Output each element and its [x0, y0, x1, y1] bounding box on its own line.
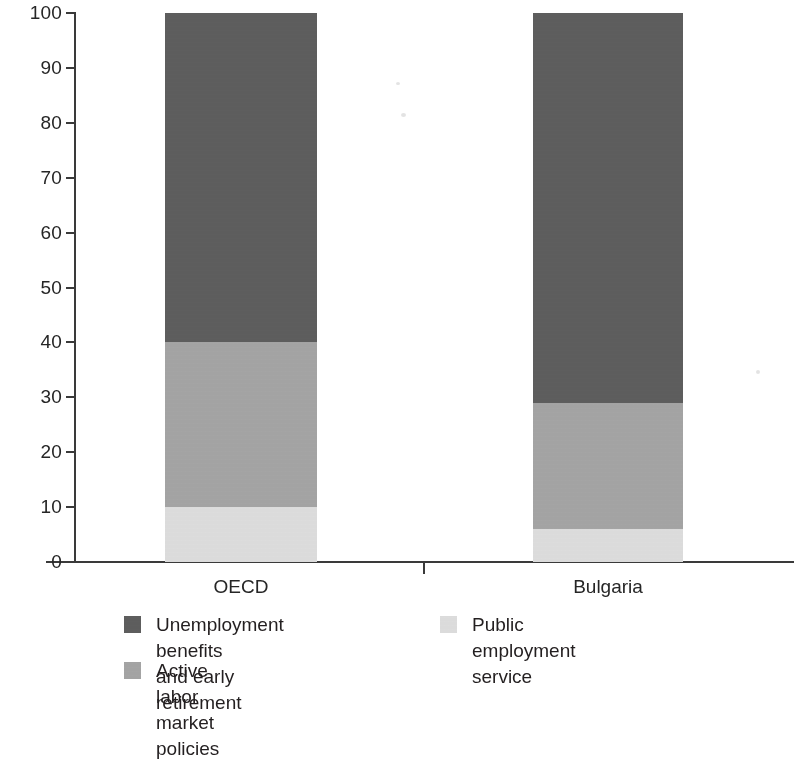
- y-axis-tick-label: 70: [6, 168, 62, 187]
- y-axis-tick-label: 0: [6, 552, 62, 571]
- y-axis-tick-label-wrap: 50: [0, 278, 62, 297]
- bar-segment: [533, 529, 683, 562]
- y-axis-tick: [66, 122, 75, 124]
- y-axis-tick-label-wrap: 30: [0, 387, 62, 406]
- y-axis-tick-label: 20: [6, 442, 62, 461]
- y-axis-tick: [66, 561, 75, 563]
- bar-segment: [165, 342, 317, 507]
- y-axis-tick: [66, 67, 75, 69]
- x-axis-center-tick: [423, 563, 425, 574]
- bar-segment: [165, 13, 317, 342]
- y-axis-tick-label-wrap: 0: [0, 552, 62, 571]
- y-axis-tick-label: 90: [6, 58, 62, 77]
- scan-grain-overlay: [165, 342, 317, 507]
- y-axis-tick: [66, 451, 75, 453]
- scan-grain-overlay: [533, 529, 683, 562]
- y-axis-tick: [66, 287, 75, 289]
- y-axis-tick-label-wrap: 60: [0, 223, 62, 242]
- x-axis-label-bulgaria: Bulgaria: [533, 576, 683, 598]
- legend-swatch-light-gray: [440, 616, 457, 633]
- x-axis-label-oecd: OECD: [165, 576, 317, 598]
- plot-area: 1009080706050403020100 OECDBulgaria: [0, 0, 796, 600]
- y-axis-tick-label: 10: [6, 497, 62, 516]
- y-axis-tick-label-wrap: 70: [0, 168, 62, 187]
- y-axis-tick-label-wrap: 100: [0, 3, 62, 22]
- y-axis-tick-label-wrap: 90: [0, 58, 62, 77]
- scan-grain-overlay: [440, 616, 457, 633]
- scan-grain-overlay: [124, 616, 141, 633]
- y-axis-tick-label: 50: [6, 278, 62, 297]
- legend-swatch-dark-gray: [124, 616, 141, 633]
- legend-label-public-employment-service: Public employment service: [472, 612, 576, 690]
- y-axis-tick-label: 30: [6, 387, 62, 406]
- scan-grain-overlay: [533, 13, 683, 403]
- chart-legend: Unemployment benefits and early retireme…: [0, 604, 796, 691]
- y-axis-tick-label-wrap: 10: [0, 497, 62, 516]
- y-axis-tick-label: 80: [6, 113, 62, 132]
- bar-segment: [533, 13, 683, 403]
- legend-swatch-mid-gray: [124, 662, 141, 679]
- bar-oecd: [165, 13, 317, 562]
- scan-speckle: [756, 370, 760, 374]
- scan-speckle: [401, 113, 406, 117]
- bar-segment: [533, 403, 683, 529]
- legend-label-active-labor-market-policies: Active labor market policies: [156, 658, 219, 762]
- bar-bulgaria: [533, 13, 683, 562]
- y-axis-tick-label-wrap: 80: [0, 113, 62, 132]
- bar-segment: [165, 507, 317, 562]
- y-axis-tick: [66, 177, 75, 179]
- y-axis-tick: [66, 341, 75, 343]
- y-axis-tick-label: 40: [6, 332, 62, 351]
- y-axis-tick-label: 60: [6, 223, 62, 242]
- y-axis-tick-label-wrap: 40: [0, 332, 62, 351]
- y-axis-tick: [66, 506, 75, 508]
- scan-speckle: [396, 82, 400, 85]
- scan-grain-overlay: [165, 13, 317, 342]
- y-axis-tick: [66, 396, 75, 398]
- y-axis-tick-label-wrap: 20: [0, 442, 62, 461]
- scan-grain-overlay: [124, 662, 141, 679]
- y-axis-tick-label: 100: [6, 3, 62, 22]
- scan-grain-overlay: [533, 403, 683, 529]
- y-axis-tick: [66, 232, 75, 234]
- y-axis-tick: [66, 12, 75, 14]
- scan-grain-overlay: [165, 507, 317, 562]
